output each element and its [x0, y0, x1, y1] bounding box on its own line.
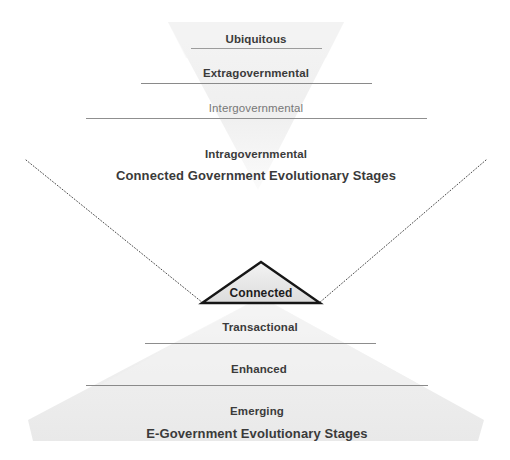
tier-label-emerging: Emerging [230, 406, 284, 418]
tier-label-intragovernmental: Intragovernmental [205, 149, 307, 161]
evolutionary-stages-diagram: Ubiquitous Extragovernmental Intergovern… [0, 0, 510, 460]
tier-label-enhanced: Enhanced [231, 364, 287, 376]
tier-label-transactional: Transactional [222, 322, 297, 334]
caption-e-government: E-Government Evolutionary Stages [146, 427, 367, 440]
connected-triangle-label: Connected [230, 287, 293, 299]
tier-label-extragovernmental: Extragovernmental [203, 68, 309, 80]
tier-label-ubiquitous: Ubiquitous [225, 34, 286, 46]
tier-label-intergovernmental: Intergovernmental [209, 103, 303, 115]
caption-connected-government: Connected Government Evolutionary Stages [116, 169, 396, 182]
